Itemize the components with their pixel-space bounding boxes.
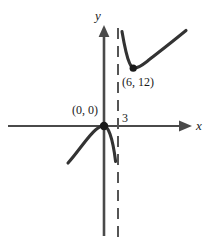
x-axis-label: x [195, 118, 202, 133]
minimum-point-marker [130, 65, 137, 72]
asymptote-tick-label: 3 [122, 111, 128, 125]
graph-figure: y x (0, 0) (6, 12) 3 [0, 0, 214, 248]
x-axis-arrowhead [179, 121, 192, 132]
curve-left-branch [68, 126, 116, 163]
curve-right-branch [122, 31, 186, 69]
origin-point-label: (0, 0) [72, 103, 98, 117]
y-axis-arrowhead [99, 25, 110, 37]
minimum-point-label: (6, 12) [122, 75, 154, 89]
coordinate-plane: y x (0, 0) (6, 12) 3 [0, 0, 214, 248]
y-axis-label: y [93, 8, 101, 23]
origin-point-marker [100, 122, 108, 130]
